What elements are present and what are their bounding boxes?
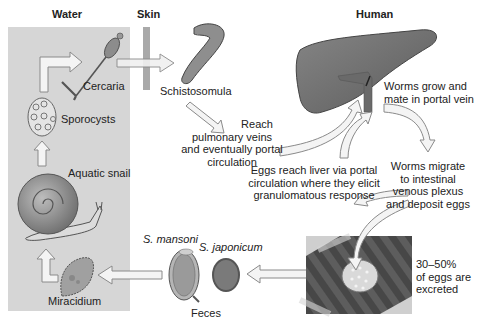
aquatic-snail-label: Aquatic snail [68, 167, 130, 180]
s-mansoni-label: S. mansoni [143, 233, 198, 246]
reach-pulmonary-text: Reach pulmonary veins and eventually por… [180, 118, 284, 168]
schistosomula-label: Schistosomula [160, 85, 232, 98]
schistosomula-icon [182, 24, 224, 84]
water-header: Water [52, 8, 82, 21]
eggs-reach-liver-text: Eggs reach liver via portal circulation … [248, 164, 380, 202]
s-mansoni-egg-icon [169, 249, 199, 302]
arrow-eggs-to-liver [340, 112, 372, 158]
worms-grow-text: Worms grow and mate in portal vein [384, 80, 474, 105]
sporocysts-label: Sporocysts [61, 113, 115, 126]
cercaria-label: Cercaria [83, 80, 125, 93]
worms-migrate-text: Worms migrate to intestinal venous plexu… [384, 160, 472, 210]
miracidium-label: Miracidium [48, 295, 101, 308]
skin-header: Skin [137, 8, 160, 21]
schistosoma-life-cycle-diagram: Water Skin Human Cercaria Sporocysts Aqu… [0, 0, 481, 323]
arrow-to-migrate [384, 104, 435, 152]
human-header: Human [356, 8, 393, 21]
eggs-excreted-text: 30–50% of eggs are excreted [416, 258, 471, 296]
s-japonicum-egg-icon [213, 259, 239, 291]
feces-label: Feces [191, 307, 221, 320]
sporocyst-icon [28, 98, 56, 136]
s-japonicum-label: S. japonicum [199, 241, 263, 254]
